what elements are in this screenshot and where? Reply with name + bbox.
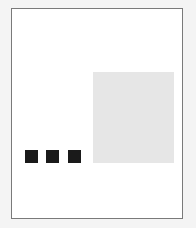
pagination-dot-3[interactable]: [68, 150, 81, 163]
card-frame: [11, 8, 183, 219]
image-placeholder: [93, 72, 174, 163]
pagination-dot-2[interactable]: [46, 150, 59, 163]
pagination-dot-1[interactable]: [25, 150, 38, 163]
